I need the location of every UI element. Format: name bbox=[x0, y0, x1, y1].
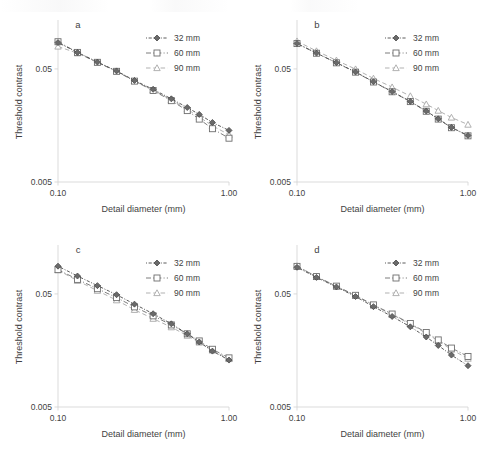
axis-ticks bbox=[55, 294, 230, 411]
axis-lines bbox=[58, 245, 229, 407]
legend: 32 mm60 mm90 mm bbox=[146, 33, 200, 73]
legend-label: 90 mm bbox=[413, 63, 439, 73]
panel-letter-d: d bbox=[314, 244, 319, 255]
legend-label: 90 mm bbox=[413, 288, 439, 298]
legend: 32 mm60 mm90 mm bbox=[385, 33, 439, 73]
axis-lines bbox=[297, 20, 468, 182]
panel-letter-c: c bbox=[76, 244, 81, 255]
legend-label: 32 mm bbox=[413, 258, 439, 268]
legend-item-60-mm[interactable]: 60 mm bbox=[385, 48, 439, 58]
x-axis-title: Detail diameter (mm) bbox=[101, 429, 185, 439]
panel-a: 0.0050.050.101.00Detail diameter (mm)Thr… bbox=[0, 0, 239, 224]
plot-d: 0.0050.050.101.00Detail diameter (mm)Thr… bbox=[239, 225, 478, 449]
series-90-mm bbox=[55, 267, 232, 362]
panel-d: 0.0050.050.101.00Detail diameter (mm)Thr… bbox=[239, 225, 478, 449]
series-90-mm bbox=[294, 38, 471, 127]
series-32-mm bbox=[55, 263, 232, 363]
axis-lines bbox=[297, 245, 468, 407]
legend-label: 32 mm bbox=[174, 258, 200, 268]
legend-label: 60 mm bbox=[174, 273, 200, 283]
axis-ticks bbox=[55, 69, 230, 186]
legend-item-90-mm[interactable]: 90 mm bbox=[385, 63, 439, 73]
x-axis-title: Detail diameter (mm) bbox=[340, 204, 424, 214]
plot-a: 0.0050.050.101.00Detail diameter (mm)Thr… bbox=[0, 0, 239, 224]
y-axis-title: Threshold contrast bbox=[253, 64, 263, 139]
y-axis-title: Threshold contrast bbox=[14, 64, 24, 139]
x-tick-label: 1.00 bbox=[221, 188, 238, 198]
y-tick-label: 0.05 bbox=[35, 64, 52, 74]
legend-item-32-mm[interactable]: 32 mm bbox=[385, 33, 439, 43]
plot-b: 0.0050.050.101.00Detail diameter (mm)Thr… bbox=[239, 0, 478, 224]
axis-ticks bbox=[294, 294, 469, 411]
x-tick-label: 0.10 bbox=[289, 188, 306, 198]
series-32-mm bbox=[55, 40, 232, 134]
figure-root: 0.0050.050.101.00Detail diameter (mm)Thr… bbox=[0, 0, 478, 449]
series-32-mm bbox=[294, 264, 471, 368]
y-tick-label: 0.05 bbox=[274, 64, 291, 74]
legend-item-90-mm[interactable]: 90 mm bbox=[146, 288, 200, 298]
legend-item-60-mm[interactable]: 60 mm bbox=[146, 48, 200, 58]
y-tick-label: 0.005 bbox=[31, 177, 53, 187]
y-tick-label: 0.005 bbox=[31, 402, 53, 412]
y-axis-title: Threshold contrast bbox=[253, 289, 263, 364]
y-tick-label: 0.05 bbox=[35, 289, 52, 299]
y-tick-label: 0.005 bbox=[270, 402, 292, 412]
axis-lines bbox=[58, 20, 229, 182]
panel-letter-b: b bbox=[314, 19, 319, 30]
x-axis-title: Detail diameter (mm) bbox=[101, 204, 185, 214]
legend-item-90-mm[interactable]: 90 mm bbox=[146, 63, 200, 73]
axis-ticks bbox=[294, 69, 469, 186]
legend: 32 mm60 mm90 mm bbox=[146, 258, 200, 298]
legend-label: 60 mm bbox=[413, 273, 439, 283]
series-32-mm bbox=[294, 40, 471, 138]
series-90-mm bbox=[294, 263, 471, 361]
legend-label: 90 mm bbox=[174, 63, 200, 73]
x-tick-label: 0.10 bbox=[50, 413, 67, 423]
panel-letter-a: a bbox=[75, 19, 81, 30]
x-tick-label: 0.10 bbox=[50, 188, 67, 198]
legend-item-60-mm[interactable]: 60 mm bbox=[146, 273, 200, 283]
legend: 32 mm60 mm90 mm bbox=[385, 258, 439, 298]
legend-item-32-mm[interactable]: 32 mm bbox=[146, 33, 200, 43]
panel-b: 0.0050.050.101.00Detail diameter (mm)Thr… bbox=[239, 0, 478, 224]
y-tick-label: 0.005 bbox=[270, 177, 292, 187]
legend-label: 90 mm bbox=[174, 288, 200, 298]
x-tick-label: 0.10 bbox=[289, 413, 306, 423]
y-tick-label: 0.05 bbox=[274, 289, 291, 299]
legend-label: 32 mm bbox=[413, 33, 439, 43]
legend-item-32-mm[interactable]: 32 mm bbox=[385, 258, 439, 268]
legend-label: 60 mm bbox=[174, 48, 200, 58]
legend-label: 32 mm bbox=[174, 33, 200, 43]
y-axis-title: Threshold contrast bbox=[14, 289, 24, 364]
x-tick-label: 1.00 bbox=[460, 188, 477, 198]
x-tick-label: 1.00 bbox=[460, 413, 477, 423]
panel-c: 0.0050.050.101.00Detail diameter (mm)Thr… bbox=[0, 225, 239, 449]
x-axis-title: Detail diameter (mm) bbox=[340, 429, 424, 439]
plot-c: 0.0050.050.101.00Detail diameter (mm)Thr… bbox=[0, 225, 239, 449]
legend-item-60-mm[interactable]: 60 mm bbox=[385, 273, 439, 283]
x-tick-label: 1.00 bbox=[221, 413, 238, 423]
legend-item-32-mm[interactable]: 32 mm bbox=[146, 258, 200, 268]
legend-label: 60 mm bbox=[413, 48, 439, 58]
legend-item-90-mm[interactable]: 90 mm bbox=[385, 288, 439, 298]
